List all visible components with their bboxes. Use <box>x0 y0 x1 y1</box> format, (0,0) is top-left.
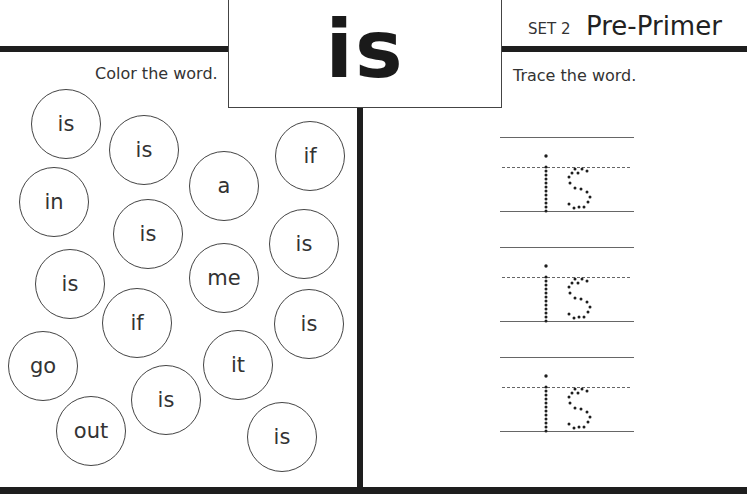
word-circle[interactable]: a <box>189 151 259 221</box>
bottom-rule <box>0 487 747 494</box>
circle-word: it <box>231 353 245 377</box>
trace-instruction: Trace the word. <box>513 66 636 85</box>
word-circle[interactable]: is <box>109 115 179 185</box>
word-circle[interactable]: in <box>19 167 89 237</box>
word-circle[interactable]: go <box>8 331 78 401</box>
center-divider <box>357 108 363 490</box>
circle-word: is <box>62 272 79 296</box>
word-circle[interactable]: it <box>203 330 273 400</box>
dotted-word-glyph <box>500 137 634 215</box>
page-title: is <box>325 10 404 90</box>
word-circle[interactable]: out <box>56 396 126 466</box>
circle-word: is <box>274 425 291 449</box>
word-circle[interactable]: if <box>102 288 172 358</box>
dotted-word-glyph <box>500 357 634 435</box>
set-label: SET 2 <box>528 20 570 38</box>
word-circle[interactable]: is <box>247 402 317 472</box>
word-circle[interactable]: is <box>113 199 183 269</box>
circle-word: is <box>140 222 157 246</box>
word-circle[interactable]: is <box>131 365 201 435</box>
circle-word: a <box>218 174 231 198</box>
word-circle[interactable]: is <box>35 249 105 319</box>
header-rule-right <box>502 46 747 52</box>
circle-word: if <box>303 144 316 168</box>
circle-word: if <box>130 311 143 335</box>
color-instruction: Color the word. <box>95 64 218 83</box>
circle-word: is <box>296 232 313 256</box>
circle-word: out <box>74 419 108 443</box>
word-circle[interactable]: me <box>189 243 259 313</box>
word-circle[interactable]: is <box>274 289 344 359</box>
trace-row[interactable] <box>500 357 634 433</box>
dotted-word-glyph <box>500 247 634 325</box>
word-circle[interactable]: is <box>269 209 339 279</box>
word-circle[interactable]: is <box>31 89 101 159</box>
trace-row[interactable] <box>500 247 634 323</box>
level-label: Pre-Primer <box>586 11 722 41</box>
circle-word: is <box>158 388 175 412</box>
circle-word: is <box>58 112 75 136</box>
circle-word: is <box>136 138 153 162</box>
word-circle[interactable]: if <box>275 121 345 191</box>
circle-word: in <box>44 190 63 214</box>
circle-word: go <box>30 354 56 378</box>
circle-word: is <box>301 312 318 336</box>
trace-row[interactable] <box>500 137 634 213</box>
title-box: is <box>228 0 502 108</box>
circle-word: me <box>207 266 240 290</box>
header-rule-left <box>0 46 229 52</box>
